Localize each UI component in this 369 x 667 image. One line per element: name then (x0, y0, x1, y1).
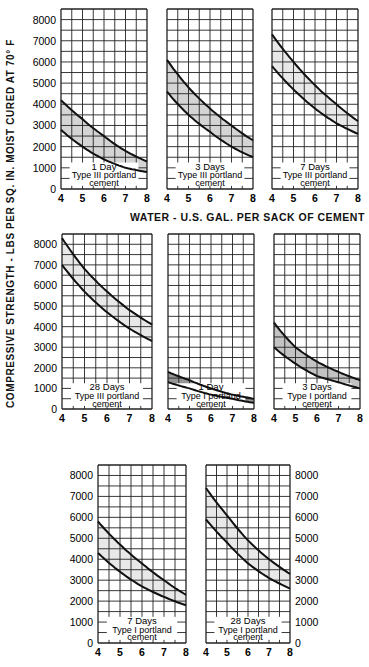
x-tick-label: 7 (336, 412, 342, 424)
x-tick-label: 6 (101, 192, 107, 204)
panel-cement-label-2: cement (233, 632, 263, 642)
y-tick-label: 6000 (33, 56, 57, 68)
x-tick-label: 6 (207, 192, 213, 204)
x-tick-label: 6 (139, 646, 145, 658)
x-tick-label: 5 (187, 412, 193, 424)
panel-cement-label-2: cement (127, 632, 157, 642)
x-tick-label: 7 (229, 192, 235, 204)
x-tick-label: 4 (58, 192, 64, 204)
x-tick-label: 8 (287, 646, 293, 658)
y-tick-label: 5000 (33, 77, 57, 89)
y-tick-label: 7000 (33, 35, 57, 47)
y-tick-label: 6000 (70, 511, 94, 523)
y-tick-label: 0 (50, 183, 56, 195)
x-tick-label: 4 (164, 192, 170, 204)
y-tick-label: 4000 (33, 98, 57, 110)
x-tick-label: 8 (355, 192, 361, 204)
y-tick-label: 3000 (70, 574, 94, 586)
x-tick-label: 6 (314, 412, 320, 424)
x-tick-label: 5 (117, 646, 123, 658)
x-tick-label: 7 (230, 412, 236, 424)
x-tick-label: 4 (271, 412, 277, 424)
y-tick-label: 8000 (33, 14, 57, 26)
y-tick-label: 7000 (70, 490, 94, 502)
y-tick-label: 8000 (295, 469, 319, 481)
y-tick-label: 0 (51, 403, 57, 415)
x-tick-label: 5 (293, 412, 299, 424)
y-axis-label: COMPRESSIVE STRENGTH - LBS PER SQ. IN. M… (5, 39, 16, 409)
y-tick-label: 8000 (70, 469, 94, 481)
y-tick-label: 5000 (34, 300, 58, 312)
x-axis-label: WATER - U.S. GAL. PER SACK OF CEMENT (130, 211, 365, 223)
x-tick-label: 7 (334, 192, 340, 204)
y-tick-label: 4000 (34, 321, 58, 333)
y-tick-label: 1000 (70, 616, 94, 628)
panel-1d-type1: 1 DayType I portlandcement45678 (165, 234, 257, 424)
x-tick-label: 5 (186, 192, 192, 204)
y-tick-label: 1000 (33, 162, 57, 174)
x-tick-label: 6 (208, 412, 214, 424)
x-tick-label: 7 (161, 646, 167, 658)
panel-cement-label-2: cement (89, 178, 119, 188)
y-tick-label: 7000 (34, 259, 58, 271)
y-tick-label: 0 (295, 637, 301, 649)
x-tick-label: 5 (82, 412, 88, 424)
y-tick-label: 1000 (295, 616, 319, 628)
y-tick-label: 7000 (295, 490, 319, 502)
x-tick-label: 5 (224, 646, 230, 658)
y-tick-label: 3000 (34, 341, 58, 353)
y-tick-label: 3000 (33, 119, 57, 131)
panel-cement-label-2: cement (300, 178, 330, 188)
y-tick-label: 5000 (70, 532, 94, 544)
y-tick-label: 2000 (295, 595, 319, 607)
y-tick-label: 5000 (295, 532, 319, 544)
y-tick-label: 2000 (70, 595, 94, 607)
x-tick-label: 4 (59, 412, 65, 424)
y-tick-label: 3000 (295, 574, 319, 586)
x-tick-label: 4 (95, 646, 101, 658)
panel-3d-type3: 3 DaysType III portlandcement45678 (164, 9, 256, 204)
y-tick-label: 0 (87, 637, 93, 649)
x-tick-label: 5 (291, 192, 297, 204)
x-tick-label: 4 (203, 646, 209, 658)
y-tick-label: 2000 (33, 141, 57, 153)
panel-cement-label-2: cement (302, 399, 332, 409)
x-tick-label: 4 (269, 192, 275, 204)
x-tick-label: 8 (251, 412, 257, 424)
y-tick-label: 8000 (34, 238, 58, 250)
x-tick-label: 7 (123, 192, 129, 204)
y-tick-label: 6000 (295, 511, 319, 523)
x-tick-label: 6 (104, 412, 110, 424)
x-tick-label: 6 (245, 646, 251, 658)
y-tick-label: 4000 (70, 553, 94, 565)
panel-cement-label-2: cement (196, 399, 226, 409)
panel-28d-type1: 28 DaysType I portlandcement456780100020… (203, 465, 318, 658)
panel-7d-type3: 7 DaysType III portlandcement45678 (269, 9, 361, 204)
panel-cement-label-2: cement (195, 178, 225, 188)
x-tick-label: 7 (266, 646, 272, 658)
x-tick-label: 8 (149, 412, 155, 424)
y-tick-label: 4000 (295, 553, 319, 565)
x-tick-label: 6 (312, 192, 318, 204)
x-tick-label: 4 (165, 412, 171, 424)
x-tick-label: 8 (357, 412, 363, 424)
panel-28d-type3: 28 DaysType III portlandcement4567801000… (34, 234, 155, 424)
y-tick-label: 1000 (34, 382, 58, 394)
x-tick-label: 8 (183, 646, 189, 658)
x-tick-label: 8 (250, 192, 256, 204)
panel-3d-type1: 3 DaysType I portlandcement45678 (271, 234, 363, 424)
panel-7d-type1: 7 DaysType I portlandcement4567801000200… (70, 465, 189, 658)
x-tick-label: 7 (127, 412, 133, 424)
panel-1d-type3: 1 DayType III portlandcement456780100020… (33, 9, 150, 204)
chart-canvas: 1 DayType III portlandcement456780100020… (0, 0, 369, 667)
panel-cement-label-2: cement (92, 399, 122, 409)
x-tick-label: 5 (80, 192, 86, 204)
x-tick-label: 8 (144, 192, 150, 204)
y-tick-label: 6000 (34, 279, 58, 291)
y-tick-label: 2000 (34, 362, 58, 374)
